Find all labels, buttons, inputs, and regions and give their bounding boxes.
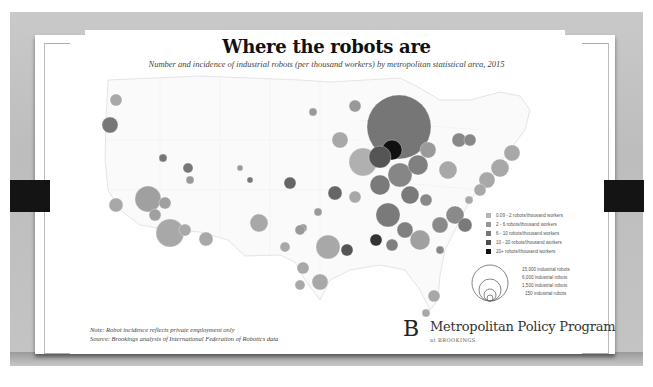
legend-row: 10 - 20 robots/thousand workers <box>486 238 563 247</box>
size-label: 15,000 industrial robots <box>522 267 570 272</box>
legend-label: 0.09 - 2 robots/thousand workers <box>496 213 563 218</box>
legend-row: 20+ robots/thousand workers <box>486 247 563 256</box>
photo-backdrop-shadow <box>10 352 643 366</box>
legend-swatch <box>486 231 491 236</box>
size-label: 6,000 industrial robots <box>522 275 567 280</box>
legend-label: 2 - 6 robots/thousand workers <box>496 222 557 227</box>
corner-rule-br <box>582 353 608 354</box>
incidence-legend: 0.09 - 2 robots/thousand workers 2 - 6 r… <box>486 211 563 256</box>
legend-label: 6 - 10 robots/thousand workers <box>496 231 559 236</box>
legend-swatch <box>486 222 491 227</box>
legend-swatch <box>486 213 491 218</box>
legend-swatch <box>486 240 491 245</box>
size-label: 1,500 industrial robots <box>522 283 567 288</box>
org-name: at BROOKINGS <box>430 337 476 343</box>
legend-label: 10 - 20 robots/thousand workers <box>496 240 562 245</box>
corner-rule-bl <box>44 353 70 354</box>
legend-row: 0.09 - 2 robots/thousand workers <box>486 211 563 220</box>
note-text: Note: Robot incidence reflects private e… <box>90 325 278 334</box>
program-name: Metropolitan Policy Program <box>430 319 615 334</box>
binder-clip-left <box>10 180 50 212</box>
size-legend: 15,000 industrial robots 6,000 industria… <box>470 262 610 302</box>
legend-swatch <box>486 249 491 254</box>
legend-row: 2 - 6 robots/thousand workers <box>486 220 563 229</box>
legend-label: 20+ robots/thousand workers <box>496 249 555 254</box>
source-text: Source: Brookings analysis of Internatio… <box>90 334 278 343</box>
map-title: Where the robots are <box>0 36 653 57</box>
size-circles-icon <box>470 262 520 302</box>
binder-clip-right <box>604 180 644 212</box>
size-label: 150 industrial robots <box>525 291 566 296</box>
footnote: Note: Robot incidence reflects private e… <box>90 325 278 343</box>
legend-row: 6 - 10 robots/thousand workers <box>486 229 563 238</box>
brookings-logo-icon: B <box>403 316 419 341</box>
